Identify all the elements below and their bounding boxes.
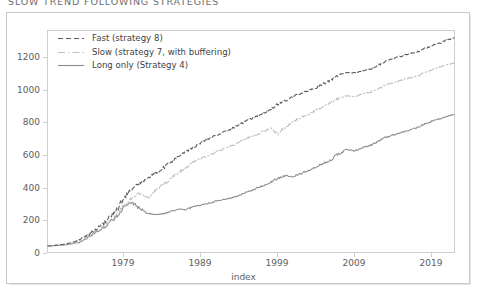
legend-swatch-dashdot xyxy=(58,48,84,57)
y-tick-label: 1200 xyxy=(4,52,40,62)
x-tick-mark xyxy=(277,253,278,257)
x-tick-mark xyxy=(354,253,355,257)
y-tick-mark xyxy=(43,188,47,189)
y-tick-label: 600 xyxy=(4,150,40,160)
y-tick-label: 1000 xyxy=(4,85,40,95)
x-tick-label: 1999 xyxy=(247,258,307,268)
y-tick-mark xyxy=(43,220,47,221)
x-tick-label: 2009 xyxy=(324,258,384,268)
y-tick-label: 0 xyxy=(4,248,40,258)
legend-label: Long only (Strategy 4) xyxy=(92,59,188,73)
y-tick-mark xyxy=(43,122,47,123)
plot-wrapper: 1200 1000 800 600 400 200 0 1979 1989 19… xyxy=(0,0,487,297)
x-tick-mark xyxy=(431,253,432,257)
chart-legend: Fast (strategy 8) Slow (strategy 7, with… xyxy=(58,32,231,73)
legend-item-slow: Slow (strategy 7, with buffering) xyxy=(58,46,231,60)
y-tick-mark xyxy=(43,57,47,58)
x-tick-label: 1989 xyxy=(170,258,230,268)
y-tick-mark xyxy=(43,155,47,156)
legend-item-long-only: Long only (Strategy 4) xyxy=(58,59,231,73)
x-tick-mark xyxy=(200,253,201,257)
x-tick-mark xyxy=(123,253,124,257)
y-tick-label: 200 xyxy=(4,215,40,225)
legend-label: Fast (strategy 8) xyxy=(92,32,163,46)
y-tick-label: 800 xyxy=(4,117,40,127)
x-axis-label: index xyxy=(0,272,487,282)
y-tick-mark xyxy=(43,90,47,91)
legend-label: Slow (strategy 7, with buffering) xyxy=(92,46,231,60)
x-tick-label: 1979 xyxy=(93,258,153,268)
y-tick-label: 400 xyxy=(4,183,40,193)
legend-swatch-dashed xyxy=(58,34,84,43)
x-tick-label: 2019 xyxy=(401,258,461,268)
legend-item-fast: Fast (strategy 8) xyxy=(58,32,231,46)
legend-swatch-solid xyxy=(58,61,84,70)
y-tick-mark xyxy=(43,253,47,254)
